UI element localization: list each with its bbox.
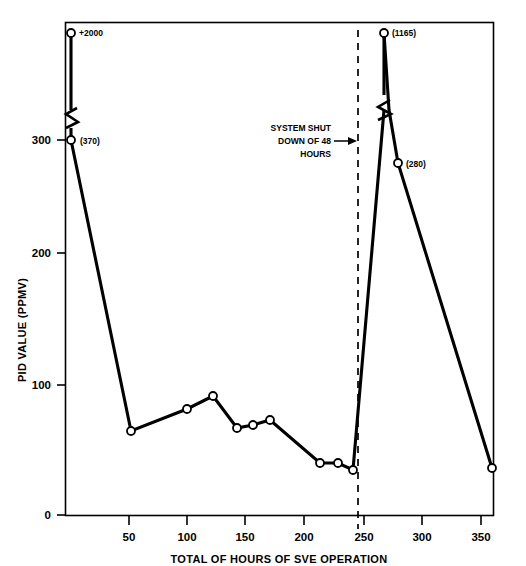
y-tick-label-0: 0 xyxy=(45,509,51,521)
data-point-marker[interactable] xyxy=(249,421,257,429)
x-tick-label-300: 300 xyxy=(412,531,431,543)
y-axis-title: PID VALUE (PPMV) xyxy=(16,278,28,382)
series-segment-main xyxy=(71,110,384,470)
data-point-marker[interactable] xyxy=(394,159,402,167)
x-tick-label-100: 100 xyxy=(177,531,196,543)
pid-value-line-chart: 0 100 200 300 50 100 150 200 250 300 350… xyxy=(0,0,526,566)
axis-break-mark-left xyxy=(66,108,78,128)
chart-container: 0 100 200 300 50 100 150 200 250 300 350… xyxy=(0,0,526,566)
annotation-line-2: DOWN OF 48 xyxy=(278,136,331,146)
annotation-arrow-head-icon xyxy=(348,137,357,145)
data-point-marker[interactable] xyxy=(266,416,274,424)
data-point-marker[interactable] xyxy=(488,464,496,472)
data-point-marker[interactable] xyxy=(127,427,135,435)
data-label-370: (370) xyxy=(80,136,100,146)
series-segment-descend-right xyxy=(384,33,492,468)
annotation-line-3: HOURS xyxy=(300,149,331,159)
x-tick-label-250: 250 xyxy=(354,531,373,543)
data-point-marker[interactable] xyxy=(349,466,357,474)
x-axis-ticks xyxy=(129,516,481,526)
data-point-marker[interactable] xyxy=(334,459,342,467)
data-point-marker[interactable] xyxy=(233,424,241,432)
data-point-marker[interactable] xyxy=(209,392,217,400)
y-tick-label-100: 100 xyxy=(32,379,51,391)
y-axis-tick-labels: 0 100 200 300 xyxy=(32,134,51,521)
data-point-marker[interactable] xyxy=(316,459,324,467)
series-markers xyxy=(67,29,496,474)
annotation-line-1: SYSTEM SHUT xyxy=(271,123,332,133)
system-shutdown-annotation: SYSTEM SHUT DOWN OF 48 HOURS xyxy=(271,123,357,159)
x-axis-tick-labels: 50 100 150 200 250 300 350 xyxy=(123,531,491,543)
data-point-marker[interactable] xyxy=(183,405,191,413)
x-tick-label-50: 50 xyxy=(123,531,136,543)
x-axis-title: TOTAL OF HOURS OF SVE OPERATION xyxy=(171,553,388,565)
data-point-marker[interactable] xyxy=(380,29,388,37)
x-tick-label-350: 350 xyxy=(471,531,490,543)
y-tick-label-300: 300 xyxy=(32,134,51,146)
y-tick-label-200: 200 xyxy=(32,247,51,259)
y-axis-ticks xyxy=(57,140,66,515)
data-point-labels: +2000 (370) (1165) (280) xyxy=(79,28,426,169)
x-tick-label-200: 200 xyxy=(294,531,313,543)
x-tick-label-150: 150 xyxy=(235,531,254,543)
data-label-1165: (1165) xyxy=(392,28,416,38)
data-label-2000: +2000 xyxy=(79,28,103,38)
data-label-280: (280) xyxy=(406,159,426,169)
data-point-marker[interactable] xyxy=(67,29,75,37)
data-point-marker[interactable] xyxy=(67,136,75,144)
